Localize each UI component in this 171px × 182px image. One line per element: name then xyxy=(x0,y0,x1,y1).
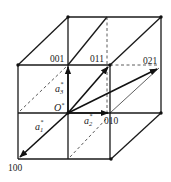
vector-021 xyxy=(68,69,157,113)
label-a3: a3* xyxy=(55,81,64,95)
label-021: 021 xyxy=(143,56,158,66)
vector-011 xyxy=(68,67,108,113)
reciprocal-lattice-diagram: 001 011 021 010 100 O* a3* a1* a2* xyxy=(0,0,171,182)
vector-a1 xyxy=(20,113,68,157)
label-001: 001 xyxy=(50,54,65,64)
front-face xyxy=(18,65,161,159)
hidden-edges xyxy=(20,67,108,157)
label-010: 010 xyxy=(104,116,119,126)
label-origin: O* xyxy=(54,102,64,113)
label-a2: a2* xyxy=(84,113,93,127)
label-011: 011 xyxy=(90,54,104,64)
vectors xyxy=(20,67,157,157)
label-a1: a1* xyxy=(35,119,43,133)
label-100: 100 xyxy=(8,163,23,173)
